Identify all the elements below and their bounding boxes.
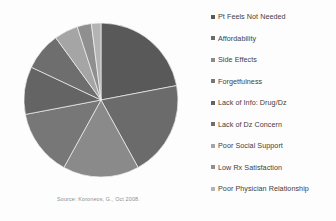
chart-figure: Source: Koroneos, G., Oct 2008. Pt Feels… — [0, 0, 336, 221]
legend-item[interactable]: Poor Social Support — [211, 135, 336, 157]
legend-item-label: Low Rx Satisfaction — [218, 164, 282, 171]
pie-chart-svg — [24, 22, 179, 178]
pie-chart — [24, 22, 179, 178]
legend-swatch-icon — [211, 58, 215, 62]
legend-swatch-icon — [211, 79, 215, 83]
chart-legend: Pt Feels Not NeededAffordabilitySide Eff… — [211, 6, 336, 200]
legend-swatch-icon — [211, 15, 215, 19]
legend-swatch-icon — [211, 36, 215, 40]
legend-item-label: Lack of Dz Concern — [218, 121, 282, 128]
legend-item[interactable]: Affordability — [211, 28, 336, 50]
legend-item-label: Pt Feels Not Needed — [218, 13, 286, 20]
legend-swatch-icon — [211, 144, 215, 148]
legend-item[interactable]: Side Effects — [211, 49, 336, 71]
legend-item[interactable]: Lack of Info: Drug/Dz — [211, 92, 336, 114]
legend-item-label: Lack of Info: Drug/Dz — [218, 99, 287, 106]
pie-slice-group — [24, 23, 178, 177]
legend-item-label: Affordability — [218, 35, 256, 42]
legend-swatch-icon — [211, 122, 215, 126]
legend-item[interactable]: Pt Feels Not Needed — [211, 6, 336, 28]
legend-item[interactable]: Low Rx Satisfaction — [211, 157, 336, 179]
legend-item-label: Forgetfulness — [218, 78, 262, 85]
legend-item-label: Side Effects — [218, 56, 257, 63]
legend-item[interactable]: Lack of Dz Concern — [211, 114, 336, 136]
legend-swatch-icon — [211, 187, 215, 191]
legend-item-label: Poor Physician Relationship — [218, 185, 309, 192]
legend-swatch-icon — [211, 165, 215, 169]
legend-swatch-icon — [211, 101, 215, 105]
legend-item[interactable]: Forgetfulness — [211, 71, 336, 93]
source-note: Source: Koroneos, G., Oct 2008. — [57, 196, 140, 202]
legend-item-label: Poor Social Support — [218, 142, 283, 149]
legend-item[interactable]: Poor Physician Relationship — [211, 178, 336, 200]
